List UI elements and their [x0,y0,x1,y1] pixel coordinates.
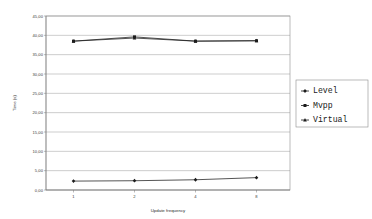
legend-label: Mvpp [313,101,333,110]
chart-container: 45,0040,0035,0030,0025,0020,0015,0010,00… [0,0,372,219]
y-axis-tick-label: 15,00 [33,130,44,135]
plot-background [46,16,290,190]
y-axis-tick-label: 35,00 [33,52,44,57]
line-chart: 45,0040,0035,0030,0025,0020,0015,0010,00… [0,0,372,219]
y-axis-tick-labels: 45,0040,0035,0030,0025,0020,0015,0010,00… [33,14,47,193]
x-axis-title: Update frequency [151,208,186,213]
data-point-marker [304,104,307,107]
legend-label: Level [313,86,338,95]
y-axis-title: Time (s) [12,94,17,110]
x-axis-tick-label: 2 [133,194,136,199]
y-axis-tick-label: 0,00 [35,188,44,193]
x-axis-tick-label: 4 [194,194,197,199]
y-axis-tick-label: 20,00 [33,110,44,115]
legend-label: Virtual [313,115,347,124]
legend: LevelMvppVirtual [296,80,368,127]
y-axis-tick-label: 45,00 [33,14,44,19]
y-axis-tick-label: 40,00 [33,33,44,38]
y-axis-tick-label: 25,00 [33,91,44,96]
y-axis-tick-label: 30,00 [33,72,44,77]
y-axis-tick-label: 10,00 [33,149,44,154]
x-axis-tick-labels: 1248 [72,190,258,199]
y-axis-tick-label: 5,00 [35,168,44,173]
x-axis-tick-label: 8 [255,194,258,199]
x-axis-tick-label: 1 [72,194,75,199]
